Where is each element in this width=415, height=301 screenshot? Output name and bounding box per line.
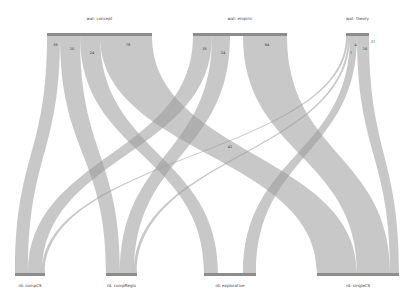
sankey-diagram: wat: conceptwat: empiricwat: theoryrd: c… — [0, 0, 415, 301]
top-node-theory[interactable] — [346, 33, 369, 36]
bottom-node-label: rd: compRegio — [107, 283, 137, 288]
flow-value-label: 24 — [90, 51, 95, 55]
top-node-label: wat: empiric — [228, 16, 253, 21]
flow-value-label: 10 — [70, 47, 74, 51]
flow-value-label: 78 — [126, 43, 130, 47]
flow-value-label: 35 — [202, 47, 206, 51]
bottom-node-explorative[interactable] — [204, 273, 256, 276]
flow-value-label: 37 — [371, 40, 375, 44]
flow-value-label: 35 — [53, 43, 57, 47]
bottom-node-compRegio[interactable] — [106, 273, 137, 276]
top-node-label: wat: theory — [346, 16, 370, 21]
bottom-node-singleCS[interactable] — [317, 273, 399, 276]
top-node-empiric[interactable] — [193, 33, 287, 36]
bottom-node-compCS[interactable] — [15, 273, 45, 276]
flow-value-label: 24 — [221, 51, 226, 55]
bottom-node-label: rd: singleCS — [346, 283, 370, 288]
top-node-label: wat: concept — [87, 16, 113, 21]
flow-value-label: 7 — [350, 51, 352, 55]
flow-value-label: 16 — [363, 47, 367, 51]
flow-ribbons — [15, 36, 399, 273]
bottom-node-label: rd: explorative — [215, 283, 245, 288]
top-node-concept[interactable] — [47, 33, 152, 36]
flow-value-label: 84 — [265, 43, 270, 47]
bottom-node-label: rd: compCS — [18, 283, 42, 288]
flow-value-label: 4 — [354, 43, 357, 47]
flow-value-label: 41 — [228, 145, 232, 149]
